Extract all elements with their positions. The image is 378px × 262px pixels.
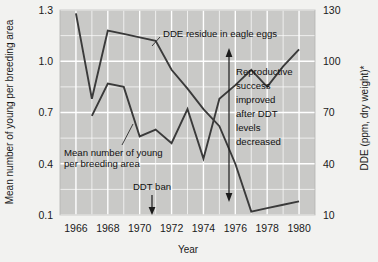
- mean-young-annotation-line1: Mean number of young: [64, 147, 163, 158]
- dde-annotation-label: DDE residue in eagle eggs: [163, 28, 277, 39]
- chart-container: 0.10.40.71.01.3 104070100130 19661968197…: [0, 0, 378, 262]
- x-axis-title: Year: [178, 244, 199, 255]
- y-axis-right-tick-label: 100: [323, 55, 341, 67]
- ddt-ban-label: DDT ban: [133, 181, 171, 192]
- y-axis-left-title: Mean number of young per breeding area: [4, 19, 15, 204]
- x-axis-tick-label: 1968: [96, 222, 120, 234]
- repro-annotation-line3: improved: [236, 94, 275, 105]
- y-axis-right-tick-label: 70: [323, 106, 335, 118]
- repro-annotation-line1: Reproductive: [236, 66, 293, 77]
- y-axis-left-tick-label: 0.4: [38, 158, 53, 170]
- x-axis-tick-label: 1974: [192, 222, 216, 234]
- y-axis-left-tick-label: 0.1: [38, 209, 53, 221]
- y-axis-left-tick-label: 0.7: [38, 106, 53, 118]
- y-axis-right-tick-label: 40: [323, 158, 335, 170]
- y-axis-right-tick-label: 130: [323, 4, 341, 16]
- mean-young-annotation-line2: per breeding area: [64, 158, 140, 169]
- repro-annotation-line5: levels: [236, 122, 261, 133]
- y-axis-left-tick-label: 1.0: [38, 55, 53, 67]
- repro-annotation-line4: after DDT: [236, 108, 278, 119]
- x-axis-tick-label: 1970: [128, 222, 152, 234]
- y-axis-right-title: DDE (ppm, dry weight)*: [359, 65, 370, 170]
- y-axis-left-tick-label: 1.3: [38, 4, 53, 16]
- x-axis-tick-label: 1980: [287, 222, 311, 234]
- y-axis-right-tick-label: 10: [323, 209, 335, 221]
- x-axis-tick-label: 1978: [256, 222, 280, 234]
- repro-annotation-line2: success: [236, 80, 271, 91]
- repro-annotation-line6: decreased: [236, 136, 281, 147]
- x-axis-tick-label: 1976: [224, 222, 248, 234]
- x-axis-tick-label: 1972: [160, 222, 184, 234]
- x-axis-tick-label: 1966: [64, 222, 88, 234]
- dde-eagle-productivity-chart: 0.10.40.71.01.3 104070100130 19661968197…: [0, 0, 378, 262]
